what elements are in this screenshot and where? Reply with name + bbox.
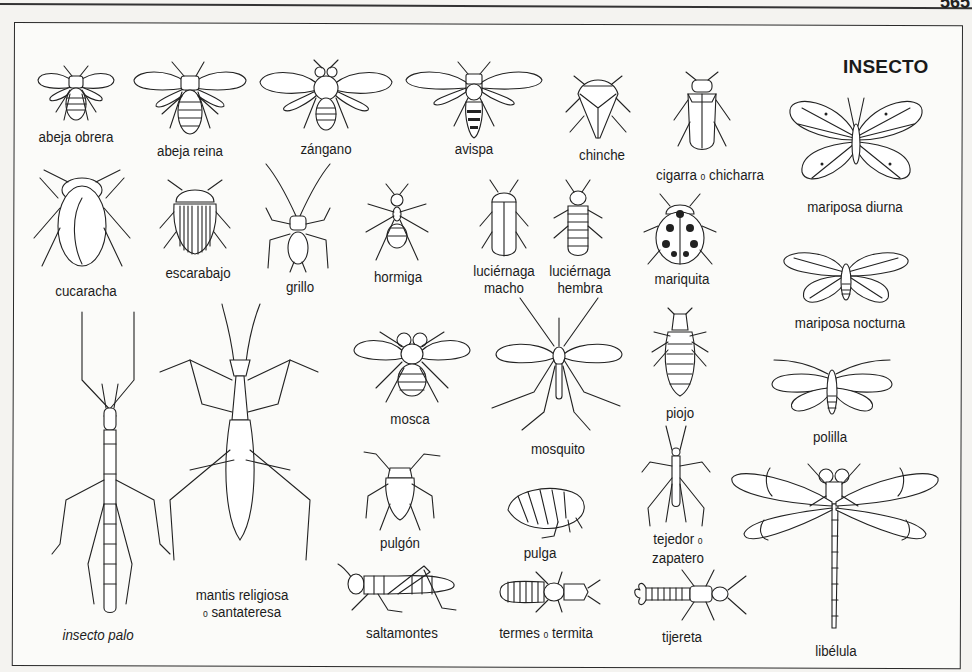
label-mantis: mantis religiosa o santateresa [196,586,289,622]
label-zangano: zángano [300,140,351,157]
libelula-illustration [728,460,948,636]
polilla-illustration [770,360,896,424]
luciernaga-macho-illustration [476,178,532,262]
label-escarabajo: escarabajo [165,264,230,281]
plate-title: INSECTO [843,56,929,78]
escarabajo-illustration [156,172,234,256]
label-mosca: mosca [390,410,429,427]
label-termes: termes o termita [499,624,593,643]
mantis-illustration [150,300,330,600]
label-mosquito: mosquito [531,440,585,457]
mariquita-illustration [640,192,720,268]
pulgon-illustration [358,448,442,532]
label-libelula: libélula [815,642,857,659]
zangano-illustration [258,58,394,138]
termes-illustration [496,570,604,614]
label-mariposa-diurna: mariposa diurna [807,198,903,215]
label-avispa: avispa [455,140,494,157]
label-insecto-palo: insecto palo [62,626,133,643]
luciernaga-hembra-illustration [550,178,606,262]
avispa-illustration [404,60,544,140]
chinche-illustration [560,72,636,142]
tejedor-illustration [636,422,716,530]
label-mariposa-nocturna: mariposa nocturna [795,314,905,331]
label-cigarra: cigarra o chicharra [656,166,764,185]
label-tijereta: tijereta [662,628,702,645]
label-abeja-reina: abeja reina [157,142,223,159]
insecto-palo-illustration [20,304,170,614]
label-luciernaga-macho: luciérnaga macho [473,262,535,296]
cucaracha-illustration [30,168,134,268]
piojo-illustration [650,308,710,398]
mosca-illustration [352,322,472,406]
label-luciernaga-hembra: luciérnaga hembra [549,262,611,296]
pulga-illustration [498,484,590,540]
tijereta-illustration [632,568,748,622]
label-cucaracha: cucaracha [55,282,117,299]
label-saltamontes: saltamontes [366,624,438,641]
grillo-illustration [262,164,334,274]
mosquito-illustration [492,296,626,432]
label-chinche: chinche [579,146,625,163]
page-number: 565 [940,0,970,13]
abeja-obrera-illustration [34,60,118,130]
label-polilla: polilla [813,428,847,445]
label-pulgon: pulgón [380,534,420,551]
label-pulga: pulga [524,544,557,561]
cigarra-illustration [666,72,738,158]
label-grillo: grillo [286,278,314,295]
mariposa-nocturna-illustration [780,244,912,308]
saltamontes-illustration [338,564,460,614]
label-mariquita: mariquita [655,270,710,287]
abeja-reina-illustration [130,58,250,140]
label-tejedor: tejedor o zapatero [652,530,704,566]
label-piojo: piojo [666,404,694,421]
label-hormiga: hormiga [374,268,422,285]
hormiga-illustration [360,184,434,264]
label-abeja-obrera: abeja obrera [39,128,114,145]
header-rule [0,3,972,9]
mariposa-diurna-illustration [786,92,926,192]
